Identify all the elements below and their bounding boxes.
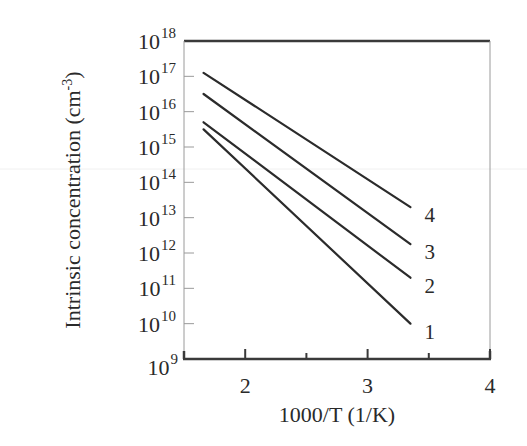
- y-tick-label: 1011: [139, 276, 176, 300]
- series-line-2: [204, 122, 411, 277]
- y-tick-label: 1016: [138, 100, 176, 124]
- x-tick-label: 4: [485, 373, 496, 399]
- y-tick-label: 109: [148, 355, 179, 379]
- axis-ticks: [184, 76, 490, 359]
- x-axis-label: 1000/T (1/K): [279, 402, 395, 428]
- y-tick-label: 1017: [138, 64, 176, 88]
- y-axis-label-sup: -3: [60, 79, 75, 91]
- y-tick-label: 1018: [138, 29, 176, 53]
- y-tick-label: 1015: [138, 135, 176, 159]
- series-line-1: [204, 129, 411, 323]
- y-tick-label: 1013: [138, 206, 176, 230]
- data-series: [204, 73, 411, 324]
- x-tick-label: 3: [362, 373, 373, 399]
- y-axis-label-main: Intrinsic concentration (cm: [60, 90, 85, 328]
- curve-label-4: 4: [424, 203, 435, 228]
- series-line-4: [204, 73, 411, 207]
- x-tick-label: 2: [240, 373, 251, 399]
- y-axis-label-close: ): [60, 71, 85, 78]
- curve-label-1: 1: [424, 320, 435, 345]
- curve-label-2: 2: [424, 274, 435, 299]
- y-tick-label: 1012: [138, 241, 176, 265]
- curve-label-3: 3: [424, 240, 435, 265]
- y-tick-label: 1014: [138, 170, 176, 194]
- y-axis-label: Intrinsic concentration (cm-3): [60, 71, 86, 328]
- y-tick-label: 1010: [138, 312, 176, 336]
- y-axis-label-container: Intrinsic concentration (cm-3): [58, 40, 88, 360]
